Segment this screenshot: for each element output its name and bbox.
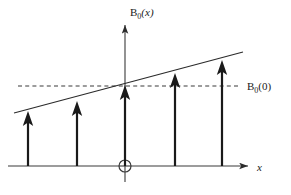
y-axis-label-base: B xyxy=(130,6,137,18)
field-arrow-4 xyxy=(170,73,180,166)
reference-label-base: B xyxy=(247,80,254,92)
reference-label-argument: (0) xyxy=(258,80,271,93)
field-arrow-2 xyxy=(72,101,82,166)
figure-canvas: B0(x) B0(0) x xyxy=(0,0,291,195)
reference-line-label: B0(0) xyxy=(247,80,272,95)
field-arrow-3 xyxy=(120,85,130,166)
y-axis-label: B0(x) xyxy=(130,6,154,21)
y-axis-label-argument: (x) xyxy=(141,6,154,19)
field-gradient-line xyxy=(14,52,243,113)
x-axis-label: x xyxy=(256,161,262,173)
physics-field-gradient-diagram: B0(x) B0(0) x xyxy=(0,0,291,195)
field-arrow-5 xyxy=(217,60,227,166)
field-arrow-1 xyxy=(23,111,33,166)
